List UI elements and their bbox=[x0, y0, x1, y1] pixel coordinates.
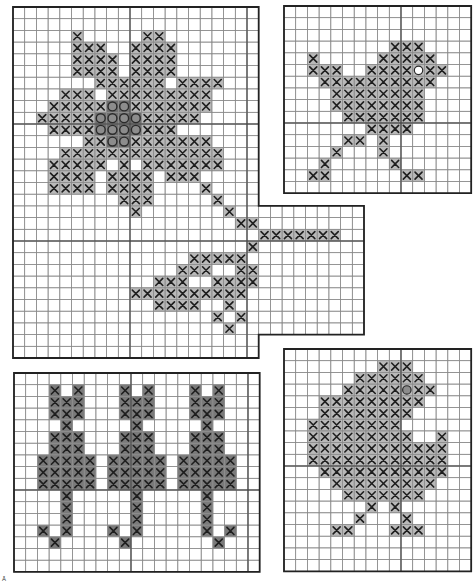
grid-lines bbox=[284, 6, 471, 193]
cats-chart bbox=[13, 372, 261, 573]
chick-chart bbox=[283, 348, 472, 572]
eye-stitch bbox=[414, 66, 422, 74]
bird-chart bbox=[283, 5, 472, 194]
eye-stitch bbox=[403, 386, 411, 394]
footnote-mark: Â bbox=[2, 576, 6, 582]
